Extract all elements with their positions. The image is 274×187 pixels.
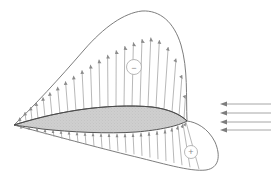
upper-pressure-vector [82, 70, 84, 111]
lower-arrowhead [156, 131, 159, 135]
upper-arrowhead [89, 65, 93, 69]
upper-pressure-vector [179, 75, 182, 115]
upper-pressure-vector [91, 65, 93, 110]
upper-arrowhead [166, 47, 170, 51]
upper-arrowhead [56, 87, 60, 91]
upper-pressure-vector [124, 46, 125, 107]
freestream-arrowhead [220, 119, 227, 124]
lower-pressure-vector [172, 128, 174, 164]
upper-arrowhead [106, 55, 110, 59]
upper-pressure-vector [50, 92, 52, 116]
freestream-arrowhead [220, 127, 227, 132]
lower-arrowhead [92, 133, 95, 136]
upper-arrowhead [173, 59, 177, 63]
lower-arrowhead [68, 132, 71, 135]
upper-arrowhead [124, 46, 128, 50]
lower-arrowhead [116, 134, 119, 138]
upper-pressure-vector [172, 59, 176, 112]
lower-arrowhead [132, 133, 135, 137]
lower-arrowhead [76, 132, 79, 135]
negative-pressure-marker: − [127, 60, 142, 75]
upper-pressure-vector [66, 81, 69, 113]
upper-arrowhead [149, 38, 153, 42]
upper-pressure-vector [164, 47, 168, 109]
upper-arrowhead [41, 97, 45, 101]
upper-arrowhead [115, 50, 119, 54]
upper-arrowhead [64, 81, 68, 85]
upper-arrowhead [80, 70, 84, 74]
negative-pressure-marker-label: − [131, 63, 136, 73]
upper-pressure-vector [74, 76, 76, 112]
diagram-canvas: − [0, 0, 274, 187]
positive-pressure-marker-label: + [188, 147, 193, 157]
upper-arrowhead [98, 60, 102, 64]
airfoil-body [14, 106, 187, 133]
lower-pressure-vector [165, 129, 166, 161]
freestream-arrowhead [220, 110, 227, 115]
upper-pressure-vector [148, 38, 151, 107]
freestream-arrow [220, 119, 271, 124]
lower-arrowhead [124, 134, 127, 138]
positive-pressure-marker: + [185, 146, 198, 159]
upper-arrowhead [48, 92, 52, 96]
upper-pressure-vector [58, 87, 60, 115]
upper-arrowhead [183, 95, 186, 99]
lower-pressure-vector [178, 126, 182, 166]
lower-arrowhead [140, 133, 143, 137]
freestream-arrow [220, 101, 271, 106]
freestream-arrowhead [220, 101, 227, 106]
lower-arrowhead [84, 133, 87, 136]
lower-arrowhead [181, 124, 184, 128]
lower-arrowhead [108, 134, 111, 137]
pressure-distribution-diagram: − [0, 0, 274, 187]
freestream-arrow [220, 127, 271, 132]
lower-arrowhead [100, 133, 103, 136]
upper-pressure-vector [140, 39, 142, 106]
airfoil-section [14, 106, 187, 133]
upper-pressure-vector [156, 40, 159, 107]
upper-pressure-vector [99, 60, 100, 109]
upper-arrowhead [158, 40, 162, 44]
freestream-arrow [220, 110, 271, 115]
freestream-flow-arrows [220, 101, 271, 132]
upper-arrowhead [72, 76, 76, 80]
lower-arrowhead [148, 132, 151, 136]
upper-arrowhead [132, 42, 136, 46]
lower-pressure-vector [157, 131, 158, 160]
lower-arrowhead [164, 129, 167, 133]
